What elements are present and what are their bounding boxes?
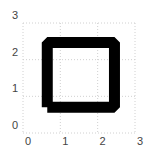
y-tick-label: 3 [12, 9, 18, 21]
y-tick-label: 2 [12, 46, 18, 58]
y-tick-label: 0 [12, 119, 18, 131]
chart: 0123 0123 [0, 0, 154, 157]
series-line [47, 42, 114, 107]
x-axis-ticks: 0123 [25, 135, 143, 147]
x-tick-label: 0 [25, 135, 31, 147]
y-axis-ticks: 0123 [12, 9, 18, 131]
square-shape [47, 42, 114, 107]
x-tick-label: 2 [100, 135, 106, 147]
x-tick-label: 3 [137, 135, 143, 147]
y-tick-label: 1 [12, 82, 18, 94]
x-tick-label: 1 [62, 135, 68, 147]
